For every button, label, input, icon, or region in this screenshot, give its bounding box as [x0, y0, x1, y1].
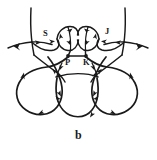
arrow-lens-right-boundary: [93, 33, 97, 39]
arrow-loop-right-bottom: [110, 109, 116, 114]
arrow-shoulder-right: [101, 39, 107, 44]
figure-caption: b: [75, 129, 82, 141]
strand-right-horizontal: [104, 42, 148, 48]
label-s: S: [43, 29, 48, 38]
arrow-lens-right-lower: [85, 40, 89, 46]
arrow-shoulder-left: [49, 39, 55, 44]
strand-center-crossbar: [56, 74, 98, 77]
arrow-right-horizontal-mid: [115, 40, 121, 45]
label-j: J: [105, 27, 109, 36]
arrow-lens-left-upper: [67, 28, 73, 33]
arrow-left-horizontal-mid: [35, 40, 41, 45]
lens-left-outer-lower: [57, 39, 79, 51]
arrow-loop-left-bottom: [38, 109, 44, 114]
strand-top-left-vertical: [31, 8, 34, 55]
figure-container: S J P K b: [0, 0, 157, 160]
lens-right-outer-lower: [78, 39, 100, 51]
strand-top-right-vertical: [122, 8, 125, 55]
strand-left-horizontal: [8, 42, 52, 48]
label-k: K: [83, 58, 90, 67]
label-p: P: [65, 58, 70, 67]
arrow-lens-left-lower: [66, 40, 70, 46]
arrow-lens-left-boundary: [59, 33, 63, 39]
